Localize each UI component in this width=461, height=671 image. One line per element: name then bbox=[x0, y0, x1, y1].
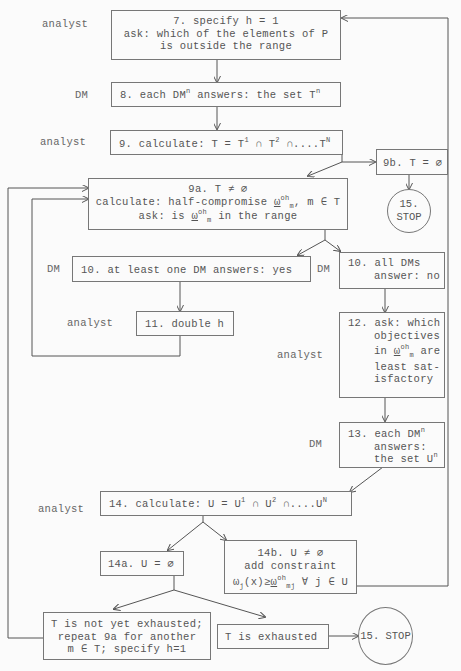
superscript-n: n bbox=[433, 451, 438, 459]
role-label-dm-10no: DM bbox=[317, 263, 330, 275]
step-12-line3-post: are bbox=[414, 345, 440, 357]
omega-j-symbol: ω bbox=[233, 576, 240, 588]
superscript-n: n bbox=[316, 87, 321, 95]
step-8-box: 8. each DMn answers: the set Tn bbox=[111, 82, 341, 107]
role-label-dm-10yes: DM bbox=[47, 263, 60, 275]
step-11-box: 11. double h bbox=[136, 311, 234, 336]
step-12-line1: 12. ask: which bbox=[348, 317, 444, 330]
role-label-analyst-11: analyst bbox=[67, 317, 113, 329]
stop-circle-top: 15. STOP bbox=[387, 189, 431, 233]
step-14a-text: 14a. U = ∅ bbox=[108, 558, 174, 570]
step-13-line3: the set Un bbox=[348, 453, 444, 466]
step-12-line3-pre: in bbox=[374, 345, 394, 357]
not-exhausted-line2: repeat 9a for another bbox=[44, 631, 210, 644]
step-12-line4: least sat- bbox=[348, 361, 444, 374]
omega-symbol: ω bbox=[271, 576, 278, 589]
step-12-line5: isfactory bbox=[348, 373, 444, 386]
step-7-line3: is outside the range bbox=[112, 40, 340, 53]
step-9a-line3-post: in the range bbox=[212, 210, 298, 222]
omega-symbol: ω bbox=[394, 345, 401, 358]
not-exhausted-line1: T is not yet exhausted; bbox=[44, 618, 210, 631]
step-8-text: 8. each DM bbox=[120, 89, 186, 101]
stop-circle-bottom: 15. STOP bbox=[358, 607, 413, 665]
step-14b-line1: 14b. U ≠ ∅ bbox=[225, 547, 356, 560]
exhausted-text: T is exhausted bbox=[225, 631, 317, 643]
omega-symbol: ω bbox=[274, 196, 281, 209]
step-14-box: 14. calculate: U = U1 ∩ U2 ∩....UN bbox=[100, 491, 352, 516]
step-14b-box: 14b. U ≠ ∅ add constraint ωj(x)≥ωohmj ∀ … bbox=[224, 540, 357, 594]
step-13-line1-text: 13. each DM bbox=[348, 428, 421, 440]
step-9-text-mid2: ∩....T bbox=[280, 138, 326, 150]
superscript-oh: oh bbox=[400, 343, 409, 351]
superscript-oh: oh bbox=[277, 574, 286, 582]
step-14a-box: 14a. U = ∅ bbox=[100, 551, 184, 576]
step-10-yes-box: 10. at least one DM answers: yes bbox=[72, 256, 311, 282]
step-14b-line2: add constraint bbox=[225, 560, 356, 573]
superscript-oh: oh bbox=[281, 194, 290, 202]
step-9a-line1: 9a. T ≠ ∅ bbox=[89, 183, 347, 196]
step-9-box: 9. calculate: T = T1 ∩ T2 ∩....TN bbox=[110, 130, 343, 155]
step-10-yes-text: 10. at least one DM answers: yes bbox=[81, 264, 292, 276]
step-13-line3-text: the set U bbox=[374, 453, 433, 465]
step-9-text-mid1: ∩ T bbox=[249, 138, 275, 150]
step-7-line2: ask: which of the elements of P bbox=[112, 28, 340, 41]
step-13-box: 13. each DMn answers: the set Un bbox=[339, 422, 445, 468]
step-13-line1: 13. each DMn bbox=[348, 428, 444, 441]
stop-label: 15. STOP bbox=[360, 630, 410, 643]
stop-number: 15. bbox=[400, 198, 419, 211]
superscript-n: n bbox=[421, 426, 426, 434]
superscript-N: N bbox=[326, 136, 331, 144]
step-14-text: 14. calculate: U = U bbox=[109, 498, 241, 510]
role-label-analyst-9: analyst bbox=[40, 136, 86, 148]
step-10-no-line1: 10. all DMs bbox=[348, 257, 444, 270]
not-exhausted-box: T is not yet exhausted; repeat 9a for an… bbox=[43, 612, 211, 660]
role-label-analyst-7: analyst bbox=[42, 18, 88, 30]
superscript-N: N bbox=[323, 496, 328, 504]
omega-symbol: ω bbox=[191, 210, 198, 223]
step-14b-line3-mid: (x)≥ bbox=[244, 576, 270, 588]
step-9a-line3: ask: is ωohm in the range bbox=[89, 210, 347, 223]
role-label-dm-13: DM bbox=[309, 438, 322, 450]
step-9a-line2: calculate: half-compromise ωohm, m ∈ T bbox=[89, 196, 347, 209]
step-14-text-mid1: ∩ U bbox=[246, 498, 272, 510]
step-13-line2: answers: bbox=[348, 441, 444, 454]
step-14b-line3: ωj(x)≥ωohmj ∀ j ∈ U bbox=[225, 576, 356, 589]
step-9a-box: 9a. T ≠ ∅ calculate: half-compromise ωoh… bbox=[88, 178, 348, 230]
superscript-oh: oh bbox=[198, 208, 207, 216]
subscript-mj: mj bbox=[286, 582, 295, 590]
role-label-dm-8: DM bbox=[75, 89, 88, 101]
step-7-box: 7. specify h = 1 ask: which of the eleme… bbox=[111, 10, 341, 60]
stop-label: STOP bbox=[396, 211, 421, 224]
step-10-no-box: 10. all DMs answer: no bbox=[339, 252, 445, 289]
step-10-no-line2: answer: no bbox=[348, 270, 444, 283]
role-label-analyst-14: analyst bbox=[38, 503, 84, 515]
step-14b-line3-post: ∀ j ∈ U bbox=[295, 576, 348, 588]
step-9b-box: 9b. T = ∅ bbox=[376, 149, 448, 175]
step-14-text-mid2: ∩....U bbox=[276, 498, 322, 510]
role-label-analyst-12: analyst bbox=[277, 349, 323, 361]
step-12-line2: objectives bbox=[348, 330, 444, 343]
not-exhausted-line3: m ∈ T; specify h=1 bbox=[44, 643, 210, 656]
step-9b-text: 9b. T = ∅ bbox=[383, 157, 442, 169]
step-9-text: 9. calculate: T = T bbox=[119, 138, 244, 150]
step-11-text: 11. double h bbox=[145, 318, 224, 330]
step-12-line3: in ωohm are bbox=[348, 345, 444, 358]
step-8-text-mid: answers: the set T bbox=[191, 89, 316, 101]
step-12-box: 12. ask: which objectives in ωohm are le… bbox=[339, 312, 445, 398]
step-9a-line2-pre: calculate: half-compromise bbox=[96, 196, 274, 208]
step-9a-line3-pre: ask: is bbox=[139, 210, 192, 222]
step-9a-line2-post: , m ∈ T bbox=[294, 196, 340, 208]
exhausted-box: T is exhausted bbox=[217, 624, 329, 649]
step-7-line1: 7. specify h = 1 bbox=[112, 15, 340, 28]
